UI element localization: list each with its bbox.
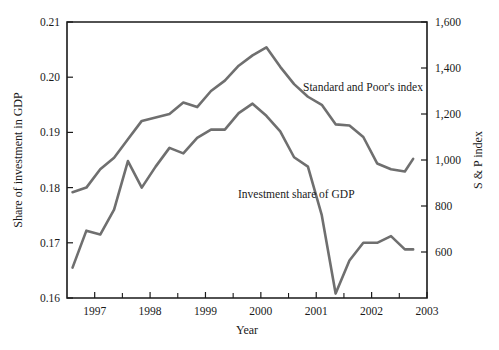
y-axis-tick-label: 0.19 (40, 126, 60, 138)
axis-ticks (67, 22, 427, 298)
y-axis-tick-label: 0.21 (40, 16, 60, 28)
y2-axis-title: S & P index (471, 131, 485, 189)
x-axis-tick-label: 2001 (305, 305, 328, 317)
y2-axis-tick-label: 800 (435, 200, 453, 212)
x-axis-tick-label: 2000 (249, 305, 272, 317)
series-annotations: Standard and Poor's indexInvestment shar… (238, 81, 423, 200)
series-line-sp500 (73, 47, 414, 192)
y-axis-tick-label: 0.17 (40, 237, 60, 249)
series-annotation-investment-share: Investment share of GDP (238, 188, 355, 200)
x-axis-title: Year (236, 323, 258, 337)
plot-border (67, 22, 427, 298)
y-axis-title: Share of investment in GDP (11, 92, 25, 228)
x-axis-tick-label: 2002 (360, 305, 383, 317)
y-axis-tick-label: 0.20 (40, 71, 60, 83)
x-axis-tick-label: 1997 (83, 305, 106, 317)
figure-container: 0.160.170.180.190.200.216008001,0001,200… (0, 0, 499, 350)
x-axis-tick-label: 1998 (139, 305, 162, 317)
x-axis-tick-label: 2003 (416, 305, 439, 317)
y2-axis-tick-label: 1,000 (435, 154, 461, 167)
axis-titles: YearShare of investment in GDPS & P inde… (11, 92, 485, 337)
y2-axis-tick-label: 1,200 (435, 108, 461, 121)
plot-frame (67, 22, 427, 298)
line-chart: 0.160.170.180.190.200.216008001,0001,200… (0, 0, 499, 350)
y2-axis-tick-label: 1,600 (435, 16, 461, 29)
y-axis-tick-label: 0.16 (40, 292, 60, 304)
y-axis-tick-label: 0.18 (40, 182, 60, 194)
y2-axis-tick-label: 600 (435, 246, 453, 258)
series-annotation-sp500: Standard and Poor's index (303, 81, 423, 93)
x-axis-tick-label: 1999 (194, 305, 217, 317)
y2-axis-tick-label: 1,400 (435, 62, 461, 75)
